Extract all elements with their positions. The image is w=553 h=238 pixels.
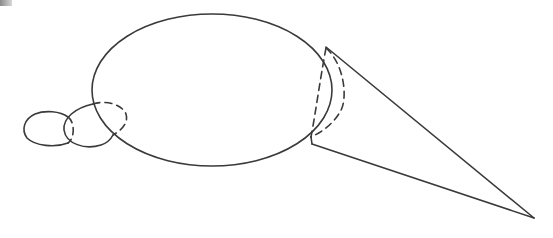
cone-base-corner — [311, 137, 312, 144]
cone-upper-edge — [326, 47, 534, 218]
small-ellipse-visible-arc — [24, 112, 68, 146]
diagram-canvas — [0, 0, 553, 238]
main-ellipse — [92, 14, 332, 166]
cone-lower-edge — [312, 144, 534, 218]
cone-base-back-dashed — [311, 48, 344, 137]
cone-base-front-dashed — [311, 48, 326, 137]
